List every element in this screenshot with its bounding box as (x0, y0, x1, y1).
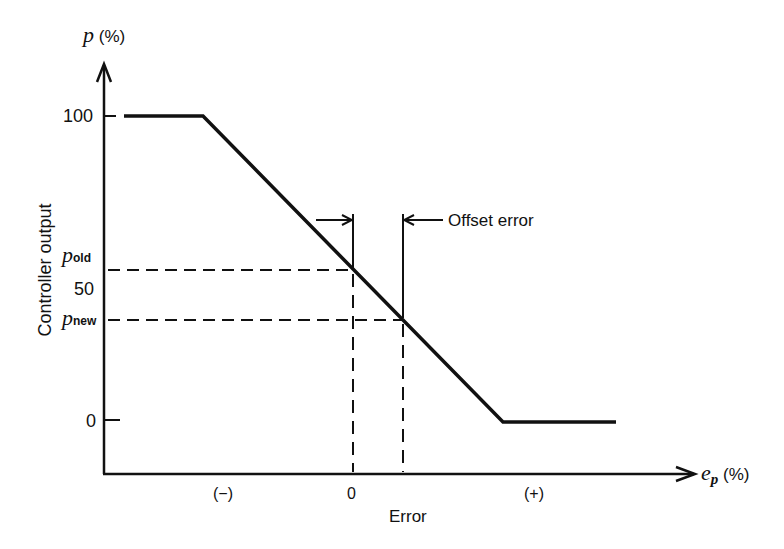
x-axis-label: Error (389, 508, 427, 525)
diagram-canvas (0, 0, 784, 549)
tick-label-50: 50 (74, 280, 94, 298)
x-tick-zero: 0 (347, 486, 356, 502)
x-tick-positive: (+) (524, 486, 544, 502)
offset-error-label: Offset error (448, 212, 534, 229)
y-axis-symbol: p (83, 22, 94, 47)
x-axis-title: ep (%) (701, 462, 749, 484)
y-axis-unit: (%) (99, 27, 125, 46)
tick-label-0: 0 (86, 412, 96, 430)
y-axis-title: p (%) (83, 24, 125, 46)
y-axis-label: Controller output (35, 203, 56, 336)
x-tick-negative: (−) (213, 486, 233, 502)
p-new-label: pnew (62, 307, 96, 329)
controller-curve (124, 116, 616, 422)
tick-label-100: 100 (63, 107, 93, 125)
p-old-label: pold (62, 244, 91, 266)
